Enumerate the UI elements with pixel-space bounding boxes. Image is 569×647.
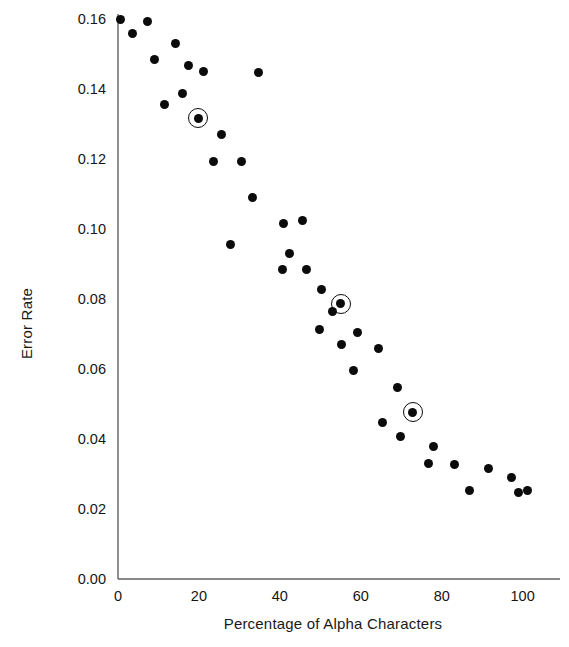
data-point: [171, 39, 180, 48]
data-point: [199, 67, 208, 76]
x-tick-label: 100: [493, 588, 553, 604]
y-tick-label: 0.12: [44, 151, 106, 167]
scatter-chart-figure: 0.000.020.040.060.080.100.120.140.160204…: [0, 0, 569, 647]
data-point: [128, 29, 137, 38]
data-point: [424, 459, 433, 468]
y-tick-label: 0.00: [44, 571, 106, 587]
data-point: [209, 157, 218, 166]
data-point: [285, 249, 294, 258]
y-tick-label: 0.08: [44, 291, 106, 307]
data-point: [429, 442, 438, 451]
y-tick-label: 0.02: [44, 501, 106, 517]
y-axis-title: Error Rate: [8, 0, 44, 647]
data-point: [337, 340, 346, 349]
y-tick-label: 0.04: [44, 431, 106, 447]
data-point: [378, 418, 387, 427]
y-tick-label: 0.10: [44, 221, 106, 237]
plot-area: 0.000.020.040.060.080.100.120.140.160204…: [0, 0, 569, 647]
data-point: [178, 89, 187, 98]
data-point: [396, 432, 405, 441]
data-point: [184, 61, 193, 70]
data-point: [248, 193, 257, 202]
x-axis-title: Percentage of Alpha Characters: [118, 615, 548, 632]
data-point: [237, 157, 246, 166]
data-point: [315, 325, 324, 334]
data-point: [254, 68, 263, 77]
x-tick-label: 20: [169, 588, 229, 604]
highlighted-data-point: [194, 114, 203, 123]
y-tick-label: 0.14: [44, 81, 106, 97]
y-tick-label: 0.16: [44, 11, 106, 27]
data-point: [523, 486, 532, 495]
data-point: [302, 265, 311, 274]
x-tick-label: 40: [250, 588, 310, 604]
x-tick-label: 80: [412, 588, 472, 604]
data-point: [393, 383, 402, 392]
data-point: [450, 460, 459, 469]
data-point: [150, 55, 159, 64]
data-point: [484, 464, 493, 473]
highlighted-data-point: [408, 408, 417, 417]
data-point: [317, 285, 326, 294]
data-point: [507, 473, 516, 482]
data-point: [353, 328, 362, 337]
data-point: [226, 240, 235, 249]
data-point: [298, 216, 307, 225]
data-point: [349, 366, 358, 375]
data-point: [278, 265, 287, 274]
data-point: [374, 344, 383, 353]
data-point: [116, 15, 125, 24]
data-point: [465, 486, 474, 495]
data-point: [279, 219, 288, 228]
data-point: [217, 130, 226, 139]
data-point: [160, 100, 169, 109]
data-point: [143, 17, 152, 26]
x-tick-label: 60: [331, 588, 391, 604]
x-tick-label: 0: [88, 588, 148, 604]
y-tick-label: 0.06: [44, 361, 106, 377]
